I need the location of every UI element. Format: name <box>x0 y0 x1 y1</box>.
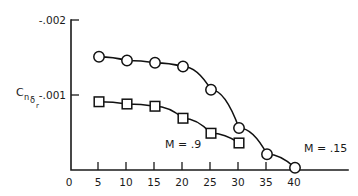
data-point-square-15 <box>150 101 160 111</box>
data-point-square-10 <box>122 99 132 109</box>
series-layer <box>94 52 300 173</box>
data-point-circle-20 <box>178 61 188 71</box>
y-tick-label-mid: -.001 <box>39 89 66 101</box>
x-tick-label-5: 5 <box>95 176 102 188</box>
data-point-circle-15 <box>150 58 160 68</box>
y-axis-label-sub-r: r <box>36 102 39 110</box>
x-tick-label-20: 20 <box>175 176 188 188</box>
x-tick-label-10: 10 <box>119 176 132 188</box>
x-tick-label-35: 35 <box>259 176 272 188</box>
data-point-circle-25 <box>206 85 216 95</box>
x-tick-label-25: 25 <box>203 176 216 188</box>
data-point-square-25 <box>206 128 216 138</box>
y-axis-label-sub-n: n <box>24 92 29 102</box>
data-point-circle-10 <box>122 55 132 65</box>
data-point-circle-35 <box>262 149 272 159</box>
x-tick-label-15: 15 <box>147 176 160 188</box>
x-tick-label-0: 0 <box>66 176 73 188</box>
y-tick-marks <box>71 20 79 95</box>
data-point-circle-40 <box>290 163 300 173</box>
y-tick-label-top: -.002 <box>39 14 66 26</box>
x-tick-marks <box>98 162 294 170</box>
data-point-circle-5 <box>94 52 104 62</box>
annotation-m015: M = .15 <box>304 142 347 155</box>
annotation-m09: M = .9 <box>165 138 201 151</box>
data-point-square-5 <box>94 97 104 107</box>
y-axis-label-base: C <box>16 86 24 99</box>
chart-figure: -.002 -.001 C n δ r 0 5 10 15 20 25 30 3… <box>0 0 358 196</box>
data-point-square-30 <box>234 138 244 148</box>
plot-area: -.002 -.001 C n δ r 0 5 10 15 20 25 30 3… <box>0 0 358 196</box>
y-axis-label-sub-delta: δ <box>30 95 35 105</box>
data-point-square-20 <box>178 113 188 123</box>
y-axis-label: C n δ r <box>16 86 39 110</box>
series-line-2 <box>99 102 239 143</box>
x-tick-label-40: 40 <box>287 176 300 188</box>
x-tick-label-30: 30 <box>231 176 244 188</box>
data-point-circle-30 <box>234 123 244 133</box>
